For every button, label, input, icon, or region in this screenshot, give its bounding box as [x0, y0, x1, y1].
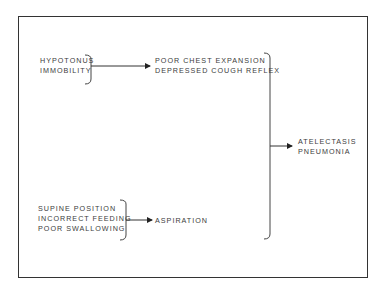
label-aspiration: ASPIRATION [155, 216, 208, 226]
label-incorrect-feeding: INCORRECT FEEDING [38, 214, 132, 224]
node-causes-top: HYPOTONUS IMMOBILITY [40, 56, 94, 76]
label-supine-position: SUPINE POSITION [38, 204, 132, 214]
label-poor-swallowing: POOR SWALLOWING [38, 224, 132, 234]
node-outcome: ATELECTASIS PNEUMONIA [298, 137, 357, 157]
label-poor-chest-expansion: POOR CHEST EXPANSION [155, 56, 280, 66]
label-hypotonus: HYPOTONUS [40, 56, 94, 66]
label-atelectasis: ATELECTASIS [298, 137, 357, 147]
label-pneumonia: PNEUMONIA [298, 147, 357, 157]
label-depressed-cough-reflex: DEPRESSED COUGH REFLEX [155, 66, 280, 76]
label-immobility: IMMOBILITY [40, 66, 94, 76]
node-effects-top: POOR CHEST EXPANSION DEPRESSED COUGH REF… [155, 56, 280, 76]
brace-large [264, 53, 270, 239]
node-causes-bottom: SUPINE POSITION INCORRECT FEEDING POOR S… [38, 204, 132, 234]
node-effect-bottom: ASPIRATION [155, 216, 208, 226]
